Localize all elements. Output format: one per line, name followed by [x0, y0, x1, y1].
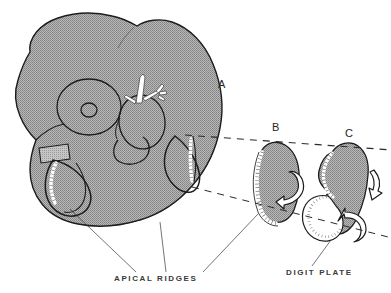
- figure-canvas: [0, 0, 391, 293]
- stage-b-bud-outline: [257, 142, 299, 222]
- limb-development-figure: A B C APICAL RIDGES DIGIT PLATE: [0, 0, 391, 293]
- leader-line-digit-plate: [312, 240, 331, 266]
- stage-label-a: A: [218, 78, 226, 90]
- stage-c-upper-rotation-arrow: [369, 170, 382, 200]
- stage-a-embryo: [16, 13, 222, 230]
- stage-label-c: C: [345, 127, 353, 139]
- forelimb-apical-ridge: [190, 139, 192, 181]
- stage-c-limb-bud: [302, 143, 382, 242]
- leader-line-stage-b-ridge: [203, 214, 258, 272]
- caption-apical-ridges: APICAL RIDGES: [114, 274, 197, 283]
- leader-line-forelimb-ridge: [160, 222, 166, 272]
- stage-label-b: B: [272, 121, 280, 133]
- caption-digit-plate: DIGIT PLATE: [286, 268, 353, 277]
- vascular-branch-limb-4: [159, 91, 167, 95]
